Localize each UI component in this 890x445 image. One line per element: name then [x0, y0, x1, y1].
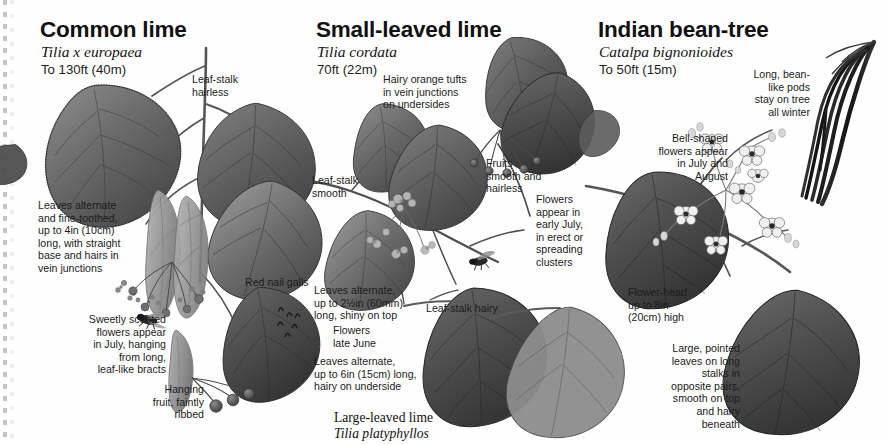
flower-cluster [367, 192, 436, 258]
species-height-indian-bean-tree: To 50ft (15m) [599, 63, 677, 77]
caption-sweetly-scented-flowers: Sweetly scented flowers appear in July, … [38, 313, 166, 376]
leaf [500, 300, 632, 439]
caption-large-pointed-leaves: Large, pointed leaves on long stalks in … [636, 342, 740, 430]
species-title-small-leaved-lime: Small-leaved lime [316, 18, 501, 42]
caption-leaves-alternate-fine-toothed: Leaves alternate and fine-toothed, up to… [38, 199, 120, 275]
caption-leaf-stalk-hairy: Leaf-stalk hairy [426, 302, 498, 315]
leaf [349, 101, 432, 194]
sub-species-large-leaved-lime: Large-leaved lime Tilia platyphyllos [334, 394, 433, 445]
species-title-indian-bean-tree: Indian bean-tree [598, 18, 769, 42]
caption-flowers-late-june: Flowers late June [333, 324, 376, 349]
caption-flower-head: Flower-head up to 8in (20cm) high [628, 286, 687, 324]
caption-leaf-stalk-smooth: Leaf-stalk smooth [312, 174, 358, 199]
caption-hairy-orange-tufts: Hairy orange tufts in vein junctions on … [383, 73, 467, 111]
species-title-common-lime: Common lime [40, 18, 187, 42]
fruit [227, 394, 239, 406]
caption-red-nail-galls: Red nail galls [245, 276, 309, 289]
species-height-small-leaved-lime: 70ft (22m) [317, 63, 377, 77]
species-latin-indian-bean-tree: Catalpa bignonioides [599, 44, 733, 60]
insect [468, 250, 498, 272]
fruit [243, 388, 254, 399]
leaf [193, 98, 322, 235]
caption-hanging-fruit: Hanging fruit, faintly ribbed [128, 383, 204, 421]
species-latin-small-leaved-lime: Tilia cordata [317, 44, 397, 60]
caption-long-bean-pods: Long, bean- like pods stay on tree all w… [718, 68, 810, 118]
leaf [475, 29, 575, 136]
page-scan-edge-mark [3, 0, 7, 439]
caption-leaf-stalk-hairless: Leaf-stalk hairless [192, 73, 238, 98]
bean-pods [802, 42, 874, 204]
leaf [571, 105, 626, 160]
flower-bract-cluster [115, 190, 208, 318]
caption-leaves-alternate-shiny: Leaves alternate, up to 2½in (60mm) long… [314, 284, 403, 322]
species-height-common-lime: To 130ft (40m) [41, 63, 126, 77]
caption-flowers-early-july: Flowers appear in early July, in erect o… [536, 193, 583, 269]
caption-fruits-smooth-hairless: Fruits smooth and hairless [486, 157, 541, 195]
leaf [384, 120, 493, 237]
fruit [210, 400, 222, 412]
leaf [215, 282, 325, 406]
page-scan-edge-mark-secondary [10, 0, 14, 439]
caption-bell-shaped-flowers: Bell-shaped flowers appear in July and A… [620, 132, 728, 182]
sub-species-latin: Tilia platyphyllos [334, 426, 433, 442]
sub-species-name: Large-leaved lime [334, 410, 433, 425]
caption-leaves-alternate-hairy: Leaves alternate, up to 6in (15cm) long,… [314, 355, 416, 393]
species-latin-common-lime: Tilia x europaea [41, 44, 142, 60]
